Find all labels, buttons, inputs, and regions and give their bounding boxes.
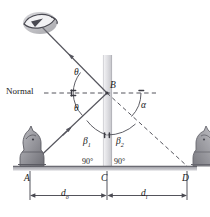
theta-reflected-label: θ — [74, 104, 79, 114]
theta-incident-label: θ — [74, 68, 79, 78]
physics-diagram-plane-mirror: Normal θ θ B α β1 β2 90° 90° A C D do di — [0, 0, 210, 217]
point-c-label: C — [101, 174, 107, 184]
right-angle-left-label: 90° — [82, 158, 93, 166]
dimension-lines — [30, 171, 187, 200]
reflected-ray — [41, 26, 107, 93]
point-b-marker — [105, 91, 108, 94]
right-angle-right-label: 90° — [114, 158, 125, 166]
point-d-label: D — [182, 174, 189, 184]
d-image-label: di — [141, 189, 147, 200]
beta2-label: β2 — [116, 137, 124, 148]
point-a-label: A — [24, 174, 30, 184]
eye-icon — [23, 12, 57, 34]
point-b-label: B — [110, 81, 116, 91]
chess-knight-image — [191, 126, 210, 166]
alpha-label: α — [141, 101, 146, 111]
normal-label: Normal — [6, 87, 34, 96]
d-object-label: do — [61, 189, 69, 200]
virtual-ray-dashed — [107, 93, 187, 166]
beta1-label: β1 — [83, 137, 91, 148]
plane-mirror — [103, 55, 112, 168]
diagram-canvas — [0, 0, 210, 217]
chess-knight-object — [18, 126, 46, 166]
ground-line — [13, 166, 197, 171]
